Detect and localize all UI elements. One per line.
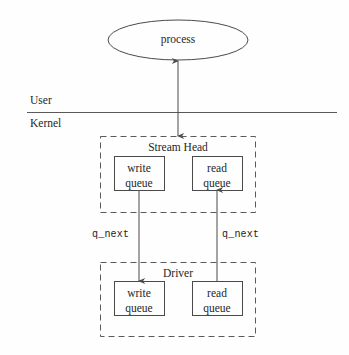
driver-label: Driver bbox=[163, 268, 193, 280]
driver-read-queue-label: read queue bbox=[192, 287, 242, 314]
driver-write-queue-label: write queue bbox=[114, 287, 164, 314]
read-qnext-label: q_next bbox=[222, 230, 259, 240]
driver-write-queue-line1: write bbox=[114, 287, 164, 299]
stream-head-read-queue-label: read queue bbox=[192, 162, 242, 189]
diagram-vector-layer bbox=[0, 0, 349, 355]
stream-head-read-queue-line1: read bbox=[192, 162, 242, 174]
driver-write-queue-line2: queue bbox=[114, 302, 164, 314]
stream-head-write-queue-line2: queue bbox=[114, 177, 164, 189]
user-label: User bbox=[30, 95, 52, 107]
driver-read-queue-line1: read bbox=[192, 287, 242, 299]
stream-head-label: Stream Head bbox=[148, 142, 208, 154]
stream-head-write-queue-label: write queue bbox=[114, 162, 164, 189]
kernel-label: Kernel bbox=[30, 118, 61, 130]
diagram-canvas: process User Kernel Stream Head write qu… bbox=[0, 0, 349, 355]
process-label: process bbox=[161, 34, 196, 46]
stream-head-read-queue-line2: queue bbox=[192, 177, 242, 189]
write-qnext-label: q_next bbox=[92, 230, 129, 240]
stream-head-write-queue-line1: write bbox=[114, 162, 164, 174]
driver-read-queue-line2: queue bbox=[192, 302, 242, 314]
